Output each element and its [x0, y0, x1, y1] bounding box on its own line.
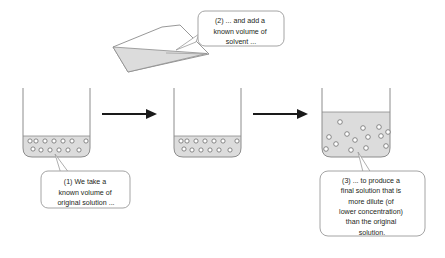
pouring-vessel-liquid	[113, 47, 207, 72]
arrow-2-head	[297, 109, 308, 119]
beaker-3	[322, 88, 390, 157]
callout-1: (1) We take a known volume of original s…	[41, 154, 130, 208]
beaker-2-liquid	[174, 136, 241, 157]
diagram-canvas: (2) ... and add a known volume of solven…	[0, 0, 445, 258]
beaker-2	[174, 88, 241, 157]
arrow-1	[102, 109, 157, 119]
arrow-2	[253, 109, 308, 119]
pouring-vessel	[113, 25, 209, 72]
beaker-1-liquid	[23, 136, 90, 157]
callout-2: (2) ... and add a known volume of solven…	[176, 11, 284, 50]
callout-1-text: (1) We take a known volume of original s…	[57, 178, 114, 207]
pouring-vessel-back-wall	[113, 25, 180, 47]
callout-3: (3) ... to produce a final solution that…	[320, 152, 425, 237]
dilution-process-diagram: (2) ... and add a known volume of solven…	[0, 0, 445, 258]
beaker-1	[23, 88, 90, 157]
callout-2-tail	[176, 34, 199, 50]
arrow-1-head	[146, 109, 157, 119]
